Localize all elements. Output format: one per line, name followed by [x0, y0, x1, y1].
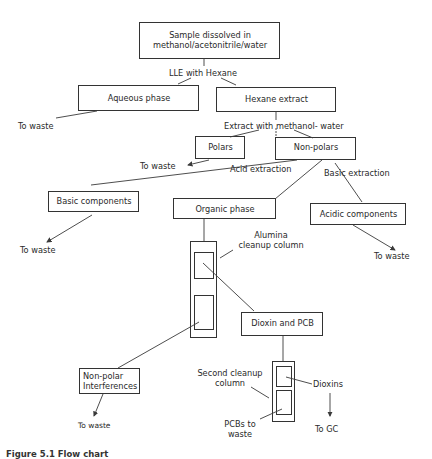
waste-label-aqueous: To waste: [18, 121, 53, 131]
waste-label-acidic: To waste: [374, 251, 409, 261]
waste-label-basic: To waste: [20, 245, 55, 255]
node-sample-line1: Sample dissolved in: [140, 30, 280, 40]
annotation-alumina-column: Alumina cleanup column: [236, 230, 306, 250]
edge-label-basic-extraction: Basic extraction: [324, 168, 390, 178]
edge-label-acid-extraction: Acid extraction: [230, 164, 292, 174]
alumina-column-bottom-band: [195, 296, 214, 330]
annotation-pcbs-to-waste: PCBs to waste: [218, 419, 262, 439]
node-acidic-components: Acidic components: [311, 209, 406, 219]
node-organic-phase: Organic phase: [174, 204, 276, 214]
node-sample-line2: methanol/acetonitrile/water: [140, 40, 280, 50]
figure-caption: Figure 5.1 Flow chart: [6, 449, 108, 459]
node-polars: Polars: [196, 142, 245, 152]
node-sample: Sample dissolved in methanol/acetonitril…: [140, 30, 280, 50]
node-nonpolar-interf-line1: Non-polar: [83, 371, 137, 381]
node-aqueous-phase: Aqueous phase: [79, 93, 199, 103]
node-dioxin-and-pcb: Dioxin and PCB: [242, 318, 323, 328]
annotation-pcbs-line2: waste: [218, 429, 262, 439]
annotation-to-gc: To GC: [315, 424, 338, 434]
second-column-top-band: [277, 367, 292, 387]
edge-label-lle: LLE with Hexane: [169, 68, 237, 78]
annotation-alumina-line2: cleanup column: [236, 240, 306, 250]
edge-label-extract-methanol-water: Extract with methanol- water: [224, 121, 344, 131]
waste-label-nonpolar-interf: To waste: [78, 421, 110, 431]
alumina-column-top-band: [195, 253, 214, 279]
annotation-alumina-line1: Alumina: [236, 230, 306, 240]
node-nonpolars: Non-polars: [276, 142, 356, 152]
annotation-second-line1: Second cleanup: [194, 368, 266, 378]
annotation-second-line2: column: [194, 378, 266, 388]
node-hexane-extract: Hexane extract: [217, 94, 336, 104]
annotation-pcbs-line1: PCBs to: [218, 419, 262, 429]
waste-label-polars: To waste: [140, 161, 175, 171]
node-basic-components: Basic components: [49, 196, 139, 206]
annotation-dioxins: Dioxins: [313, 379, 343, 389]
node-nonpolar-interferences: Non-polar Interferences: [83, 371, 137, 391]
node-nonpolar-interf-line2: Interferences: [83, 381, 137, 391]
annotation-second-cleanup-column: Second cleanup column: [194, 368, 266, 388]
